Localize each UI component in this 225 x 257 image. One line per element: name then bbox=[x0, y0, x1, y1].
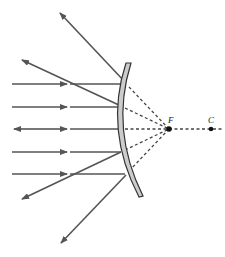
dashed-extension-5 bbox=[129, 129, 169, 171]
dashed-extension-2 bbox=[125, 108, 169, 129]
dashed-extension-1 bbox=[129, 87, 169, 129]
reflected-ray-5 bbox=[61, 175, 126, 243]
focal-point-label: F bbox=[167, 115, 174, 125]
dashed-extension-4 bbox=[125, 129, 169, 150]
reflected-ray-2 bbox=[22, 60, 121, 106]
incident-rays bbox=[12, 84, 125, 174]
center-of-curvature-dot bbox=[209, 127, 214, 132]
center-of-curvature-label: C bbox=[208, 115, 215, 125]
reflected-rays bbox=[22, 13, 126, 243]
virtual-ray-extensions bbox=[125, 87, 222, 171]
focal-point-dot bbox=[166, 126, 172, 132]
convex-mirror bbox=[118, 63, 143, 197]
reflected-ray-4 bbox=[22, 152, 121, 199]
convex-mirror-diagram: F C bbox=[0, 0, 225, 257]
reflected-ray-1 bbox=[60, 13, 125, 82]
